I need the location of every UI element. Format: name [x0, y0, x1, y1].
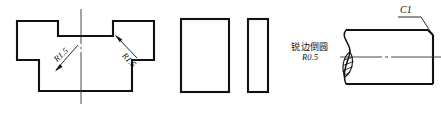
technical-drawing-canvas: R1.5 R1.5 锐边倒圆 R0.5 C1	[0, 0, 441, 114]
chamfer-leader-line	[398, 17, 430, 31]
drawing-svg-layer	[0, 0, 441, 114]
edge-rounding-radius-value: R0.5	[280, 53, 340, 62]
edge-rounding-note: 锐边倒圆 R0.5	[280, 43, 340, 62]
chamfer-label-c1: C1	[400, 4, 412, 15]
rectangle-narrow-outline	[248, 19, 268, 92]
edge-rounding-note-text: 锐边倒圆	[280, 43, 340, 52]
rectangle-wide-outline	[181, 19, 229, 92]
